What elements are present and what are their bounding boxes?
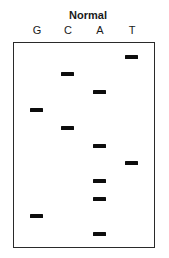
band-a <box>93 90 106 94</box>
lane-label-a: A <box>90 24 110 36</box>
band-a <box>93 179 106 183</box>
band-c <box>61 72 74 76</box>
band-a <box>93 197 106 201</box>
band-c <box>61 126 74 130</box>
lane-label-c: C <box>58 24 78 36</box>
lane-label-g: G <box>27 24 47 36</box>
band-g <box>30 214 43 218</box>
lane-label-t: T <box>122 24 142 36</box>
band-g <box>30 108 43 112</box>
band-t <box>125 161 138 165</box>
gel-title: Normal <box>0 9 169 21</box>
band-a <box>93 232 106 236</box>
band-a <box>93 144 106 148</box>
band-t <box>125 55 138 59</box>
